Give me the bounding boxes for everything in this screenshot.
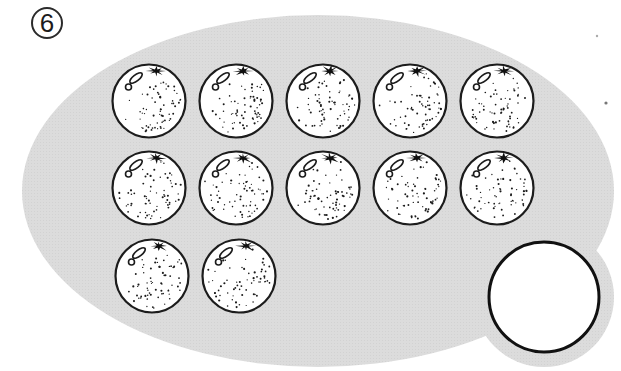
worksheet-problem: 6 [0, 0, 621, 371]
orange-highlight-dot [387, 171, 393, 177]
orange-highlight-dot [126, 171, 132, 177]
orange [374, 65, 447, 138]
orange-highlight-dot [213, 84, 219, 90]
problem-number-badge: 6 [31, 7, 63, 39]
orange [200, 152, 273, 225]
orange-skin [113, 152, 186, 225]
orange-skin [461, 152, 534, 225]
orange-highlight-dot [474, 84, 480, 90]
orange-highlight-dot [216, 259, 222, 265]
orange-skin [374, 65, 447, 138]
scan-speck [604, 101, 607, 104]
orange [113, 65, 186, 138]
scan-speck [596, 35, 598, 37]
orange [116, 240, 189, 313]
orange-highlight-dot [300, 84, 306, 90]
orange-highlight-dot [213, 171, 219, 177]
orange [287, 65, 360, 138]
orange-skin [287, 65, 360, 138]
orange [113, 152, 186, 225]
orange [200, 65, 273, 138]
orange-highlight-dot [126, 84, 132, 90]
orange-skin [116, 240, 189, 313]
empty-circle [489, 242, 599, 352]
orange-skin [374, 152, 447, 225]
orange-skin [461, 65, 534, 138]
orange-skin [200, 65, 273, 138]
orange-highlight-dot [129, 259, 135, 265]
orange-highlight-dot [474, 171, 480, 177]
orange [203, 240, 276, 313]
orange [374, 152, 447, 225]
orange [461, 152, 534, 225]
problem-number: 6 [40, 10, 54, 36]
orange-highlight-dot [387, 84, 393, 90]
orange-highlight-dot [300, 171, 306, 177]
orange [287, 152, 360, 225]
orange [461, 65, 534, 138]
oranges-set-illustration [0, 0, 621, 371]
orange-skin [200, 152, 273, 225]
